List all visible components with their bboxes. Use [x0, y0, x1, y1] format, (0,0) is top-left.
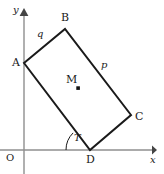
y-axis-arrow-icon [20, 8, 29, 16]
side-label-q: q [37, 29, 43, 39]
vertex-label-b: B [61, 12, 69, 23]
geometry-figure: y x O A B C D M q p T [0, 0, 164, 174]
vertex-label-d: D [86, 154, 95, 165]
y-axis-label: y [13, 5, 19, 15]
vertex-label-a: A [12, 57, 20, 68]
origin-label: O [6, 153, 14, 163]
centre-point-dot [76, 86, 80, 90]
figure-canvas [0, 0, 164, 174]
x-axis-label: x [150, 155, 156, 165]
angle-arc [66, 133, 73, 150]
angle-label-t: T [74, 133, 81, 143]
vertex-label-c: C [135, 111, 143, 122]
side-label-p: p [101, 60, 107, 70]
centre-label-m: M [66, 74, 77, 85]
